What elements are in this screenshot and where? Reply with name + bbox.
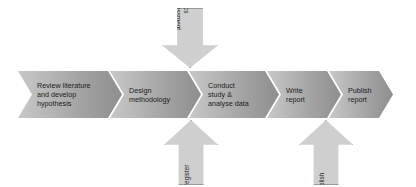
process-step-label-conduct-study: Conduct study & analyse data bbox=[208, 80, 264, 108]
annotation-label-review-to-publish: Review to publish bbox=[302, 167, 326, 187]
annotation-arrow-ethics-assessment: Ethics assessment bbox=[162, 8, 218, 68]
process-step-label-review-literature: Review literature and develop hypothesis bbox=[37, 80, 107, 108]
annotation-arrow-review-to-publish: Review to publish bbox=[299, 120, 353, 185]
process-step-review-literature: Review literature and develop hypothesis bbox=[18, 71, 122, 118]
process-step-design-methodology: Design methodology bbox=[110, 71, 201, 118]
process-step-label-design-methodology: Design methodology bbox=[129, 85, 186, 104]
process-step-label-write-report: Write report bbox=[286, 85, 326, 104]
annotation-label-ethics-assessment: Ethics assessment bbox=[174, 0, 190, 30]
annotation-arrow-review-and-preregister: Review and preregister bbox=[164, 120, 218, 185]
process-step-label-publish-report: Publish report bbox=[348, 85, 378, 104]
process-flow-diagram: Ethics assessment Review literature and … bbox=[0, 0, 416, 187]
annotation-label-review-and-preregister: Review and preregister bbox=[167, 165, 191, 187]
process-step-conduct-study: Conduct study & analyse data bbox=[189, 71, 279, 118]
